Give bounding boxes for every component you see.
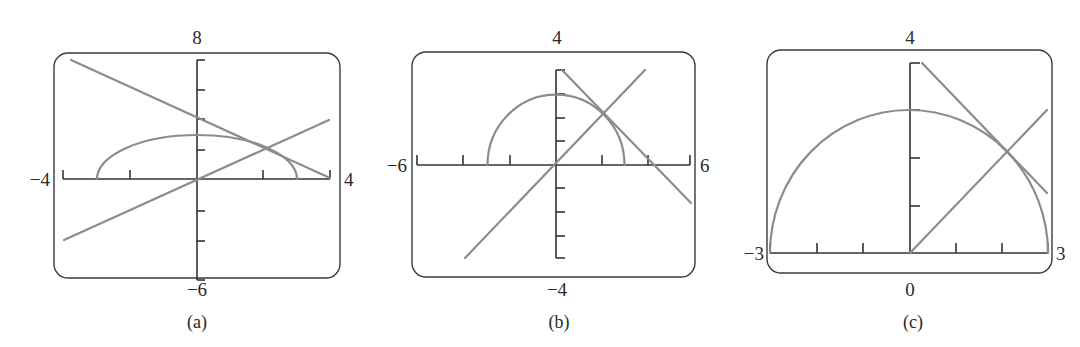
panel-b-xmin-label: −6	[387, 155, 407, 176]
panel-c-semicircle	[770, 110, 1048, 253]
panel-c-x-axis	[770, 243, 1048, 253]
panel-c-y-axis	[910, 63, 920, 253]
panel-c-ymax-label: 4	[905, 27, 915, 48]
panel-b-line-y-equals-x	[465, 70, 645, 258]
panel-b-ymin-label: −4	[547, 279, 568, 300]
panel-b-xmax-label: 6	[700, 155, 710, 176]
panel-a-caption: (a)	[187, 312, 207, 333]
panel-c: 4 0 −3 3 (c)	[744, 27, 1066, 333]
panel-c-line-y-equals-x	[910, 110, 1047, 253]
panel-a-ymax-label: 8	[192, 27, 202, 48]
panel-a-ymin-label: −6	[187, 279, 207, 300]
panel-c-xmin-label: −3	[744, 243, 764, 264]
panel-b-ymax-label: 4	[552, 27, 562, 48]
panel-a-tangent-line	[71, 60, 330, 178]
panel-b-caption: (b)	[549, 312, 570, 333]
panel-a-xmin-label: −4	[30, 169, 51, 190]
panel-c-xmax-label: 3	[1056, 243, 1066, 264]
figure: 8 −6 −4 4 (a)	[0, 0, 1080, 347]
panel-a-xmax-label: 4	[344, 169, 354, 190]
panel-c-ymin-label: 0	[905, 279, 915, 300]
panel-a-y-axis	[197, 60, 205, 280]
panel-a: 8 −6 −4 4 (a)	[30, 27, 354, 333]
panel-b: 4 −4 −6 6 (b)	[387, 27, 710, 333]
panel-b-y-axis	[556, 70, 565, 258]
panel-c-caption: (c)	[903, 312, 923, 333]
